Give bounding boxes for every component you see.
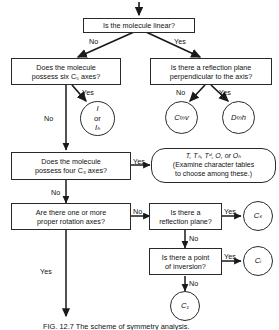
edge-label-c3-yes: Yes [133,157,145,166]
edge-label-perp-yes: Yes [219,88,231,97]
question-perp-line2: perpendicular to the axis? [170,72,252,81]
question-reflection-plane-line1: Is there a [171,208,201,217]
question-proper-rotation-axes: Are there one or more proper rotation ax… [11,203,131,230]
terminal-c-infinity-v: C∞v [165,101,198,134]
edge-label-inversion-yes: Yes [224,252,236,261]
terminal-point-groups-line3: to choose among these.) [175,170,252,179]
edge-label-c5-no: No [44,114,53,123]
terminal-cs: Cₛ [243,201,273,231]
question-proper-rotation-line2: proper rotation axes? [37,217,105,226]
terminal-ci: Cᵢ [243,246,273,276]
terminal-icosahedral-line2: or [94,114,101,123]
question-linear-text: Is the molecule linear? [103,21,175,30]
terminal-c1: C₁ [170,291,200,321]
edge-label-linear-yes: Yes [174,37,186,46]
question-proper-rotation-line1: Are there one or more [36,208,106,217]
edge-label-inversion-no: No [189,279,198,288]
edge-label-linear-no: No [89,37,98,46]
edge-label-c5-yes: Yes [82,88,94,97]
terminal-icosahedral-line1: I [96,104,98,113]
figure-caption: FIG. 12.7 The scheme of symmetry analysi… [43,322,190,330]
terminal-point-groups-line1: T, Tₕ, Tᵈ, O, or Oₕ [186,152,242,161]
question-six-c5-axes: Does the molecule possess six C₅ axes? [11,58,121,85]
terminal-icosahedral-line3: Iₕ [95,123,100,132]
question-reflection-plane: Is there a reflection plane? [149,203,222,230]
question-six-c5-line1: Does the molecule [36,63,96,72]
terminal-point-groups-line2: (Examine character tables [173,161,254,170]
question-four-c3-axes: Does the molecule possess four C₃ axes? [11,152,131,180]
edge-label-proper-no: No [133,207,142,216]
question-four-c3-line2: possess four C₃ axes? [35,166,107,175]
edge-label-plane-no: No [189,234,198,243]
question-reflection-plane-perpendicular: Is there a reflection plane perpendicula… [150,58,272,85]
terminal-cs-text: Cₛ [254,211,262,220]
edge-label-proper-yes: Yes [40,267,52,276]
edge-label-plane-yes: Yes [224,207,236,216]
edge-label-c3-no: No [51,188,60,197]
question-four-c3-line1: Does the molecule [41,157,101,166]
terminal-tetrahedral-octahedral: T, Tₕ, Tᵈ, O, or Oₕ (Examine character t… [151,148,276,183]
edge-label-perp-no: No [176,88,185,97]
question-inversion-line1: Is there a point [162,253,210,262]
question-reflection-plane-line2: reflection plane? [159,217,212,226]
question-point-of-inversion: Is there a point of inversion? [149,248,222,275]
question-is-molecule-linear: Is the molecule linear? [83,18,195,33]
terminal-icosahedral: I or Iₕ [80,101,115,136]
question-perp-line1: Is there a reflection plane [171,63,252,72]
terminal-c1-text: C₁ [181,301,189,310]
question-six-c5-line2: possess six C₅ axes? [32,72,100,81]
question-inversion-line2: of inversion? [165,262,206,271]
terminal-d-infinity-h-text: D∞h [231,113,246,122]
symmetry-flowchart: Is the molecule linear? Does the molecul… [0,0,279,330]
terminal-ci-text: Cᵢ [255,256,261,265]
terminal-d-infinity-h: D∞h [222,101,255,134]
terminal-c-infinity-v-text: C∞v [174,113,189,122]
